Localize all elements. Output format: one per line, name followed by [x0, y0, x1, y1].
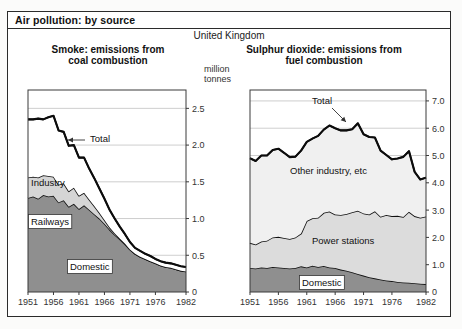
x-tick-label: 1951 [18, 297, 38, 307]
region-label: United Kingdom [8, 30, 450, 41]
x-tick-label: 1966 [94, 297, 114, 307]
chart-title-sulphur: Sulphur dioxide: emissions from fuel com… [230, 44, 450, 66]
y-tick-label: 0.5 [192, 251, 205, 261]
unit-label-smoke: million tonnes [204, 64, 231, 84]
figure-frame: Air pollution: by source United Kingdom … [7, 11, 451, 317]
x-tick-label: 1982 [416, 297, 436, 307]
series-label: Other industry, etc [290, 165, 367, 176]
x-tick-label: 1956 [268, 297, 288, 307]
x-tick-label: 1961 [297, 297, 317, 307]
y-tick-label: 4.0 [432, 178, 445, 188]
y-tick-label: 1.0 [432, 260, 445, 270]
x-tick-label: 1971 [354, 297, 374, 307]
y-tick-label: 7.0 [432, 96, 445, 106]
series-label: Railways [31, 216, 69, 227]
screenshot-page: Air pollution: by source United Kingdom … [0, 0, 462, 329]
chart-title-sulphur-line1: Sulphur dioxide: emissions from [234, 44, 414, 55]
y-tick-label: 0 [192, 287, 197, 297]
y-tick-label: 1.5 [192, 177, 205, 187]
x-tick-label: 1971 [120, 297, 140, 307]
x-tick-label: 1956 [43, 297, 63, 307]
series-label: Power stations [312, 235, 375, 246]
x-tick-label: 1951 [240, 297, 260, 307]
x-tick-label: 1976 [145, 297, 165, 307]
chart-svg-sulphur: 01.02.03.04.05.06.07.0195119561961196619… [230, 66, 450, 321]
x-tick-label: 1982 [176, 297, 196, 307]
chart-title-smoke-line2: coal combustion [20, 55, 196, 66]
chart-title-smoke: Smoke: emissions from coal combustion [10, 44, 230, 66]
y-tick-label: 1.0 [192, 214, 205, 224]
series-label: Domestic [302, 277, 342, 288]
series-label: Total [90, 133, 110, 144]
chart-title-smoke-line1: Smoke: emissions from [20, 44, 196, 55]
unit-label-smoke-line1: million [204, 64, 231, 74]
y-tick-label: 3.0 [432, 206, 445, 216]
y-tick-label: 6.0 [432, 124, 445, 134]
series-label: Domestic [70, 261, 110, 272]
chart-panel-smoke: Smoke: emissions from coal combustion mi… [10, 44, 230, 321]
x-tick-label: 1961 [69, 297, 89, 307]
figure-titlebar: Air pollution: by source [8, 12, 450, 29]
x-tick-label: 1966 [325, 297, 345, 307]
unit-label-smoke-line2: tonnes [204, 74, 231, 84]
series-label: Industry [31, 177, 65, 188]
y-tick-label: 5.0 [432, 151, 445, 161]
y-tick-label: 2.0 [432, 233, 445, 243]
y-tick-label: 0 [432, 287, 437, 297]
x-tick-label: 1976 [382, 297, 402, 307]
page-title: Air pollution: by source [15, 14, 135, 26]
y-tick-label: 2.0 [192, 140, 205, 150]
series-label: Total [312, 95, 332, 106]
chart-svg-smoke: 00.51.01.52.02.5195119561961196619711976… [10, 66, 230, 321]
y-tick-label: 2.5 [192, 104, 205, 114]
chart-title-sulphur-line2: fuel combustion [234, 55, 414, 66]
chart-panel-sulphur: Sulphur dioxide: emissions from fuel com… [230, 44, 450, 321]
